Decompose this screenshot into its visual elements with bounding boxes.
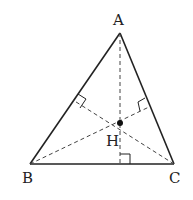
orthocenter-point bbox=[117, 120, 123, 126]
right-angle-mark-ab bbox=[78, 94, 86, 108]
label-b: B bbox=[22, 169, 33, 187]
right-angle-mark-bc bbox=[120, 154, 130, 164]
side-ac bbox=[120, 33, 174, 164]
label-a: A bbox=[112, 11, 124, 29]
label-c: C bbox=[169, 169, 180, 187]
label-h: H bbox=[106, 132, 119, 150]
orthocenter-diagram: A B C H bbox=[0, 0, 193, 200]
altitude-from-b bbox=[30, 107, 149, 164]
